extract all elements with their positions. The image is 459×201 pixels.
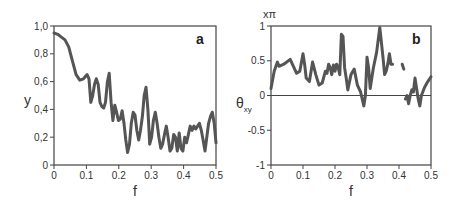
x-tick-label: 0.5 xyxy=(424,170,438,181)
chart-panel-a: 00,20,40,60,81,0 00.10.20.30.40.5 y f a xyxy=(24,21,223,200)
y-axis-label-b: θxy xyxy=(236,95,252,114)
y-axis-ticks-a: 00,20,40,60,81,0 xyxy=(34,21,54,171)
x-axis-label-b: f xyxy=(349,183,353,199)
x-tick-label: 0 xyxy=(51,170,57,181)
data-line-a xyxy=(54,33,216,153)
y-tick-label: 0 xyxy=(259,90,265,101)
panel-label-a: a xyxy=(196,31,204,47)
y-tick-label: 1,0 xyxy=(34,21,48,32)
x-tick-label: 0 xyxy=(268,170,274,181)
panel-label-b: b xyxy=(412,31,421,47)
y-tick-label: 0,6 xyxy=(34,76,48,87)
x-axis-ticks-a: 00.10.20.30.40.5 xyxy=(51,165,223,181)
x-tick-label: 0.3 xyxy=(360,170,374,181)
y-tick-label: 0,4 xyxy=(34,104,48,115)
figure: 00,20,40,60,81,0 00.10.20.30.40.5 y f a … xyxy=(0,0,459,201)
data-line-b-segment xyxy=(402,64,404,69)
unit-label-b: xπ xyxy=(263,8,277,20)
y-axis-ticks-b: -1-0.500.51 xyxy=(248,21,271,171)
data-line-b-segment xyxy=(271,27,393,106)
x-axis-label-a: f xyxy=(133,183,137,199)
x-tick-label: 0.2 xyxy=(112,170,126,181)
x-tick-label: 0.2 xyxy=(328,170,342,181)
y-tick-label: -0.5 xyxy=(248,125,266,136)
y-tick-label: 0,8 xyxy=(34,48,48,59)
x-tick-label: 0.5 xyxy=(209,170,223,181)
data-lines-b xyxy=(271,27,431,106)
y-tick-label: 1 xyxy=(259,21,265,32)
x-tick-label: 0.1 xyxy=(79,170,93,181)
x-tick-label: 0.3 xyxy=(144,170,158,181)
x-tick-label: 0.1 xyxy=(296,170,310,181)
y-tick-label: -1 xyxy=(256,160,265,171)
x-tick-label: 0.4 xyxy=(392,170,406,181)
y-tick-label: 0.5 xyxy=(251,55,265,66)
y-axis-label-b-sub: xy xyxy=(244,105,252,114)
plot-frame-a xyxy=(54,26,216,165)
x-tick-label: 0.4 xyxy=(177,170,191,181)
y-tick-label: 0,2 xyxy=(34,132,48,143)
data-line-b-segment xyxy=(405,77,431,106)
y-axis-label-b-main: θ xyxy=(236,95,244,111)
y-tick-label: 0 xyxy=(42,160,48,171)
y-axis-label-a: y xyxy=(24,92,31,108)
chart-panel-b: -1-0.500.51 00.10.20.30.40.5 xπ θxy f b xyxy=(236,8,438,199)
x-axis-ticks-b: 00.10.20.30.40.5 xyxy=(268,165,438,181)
